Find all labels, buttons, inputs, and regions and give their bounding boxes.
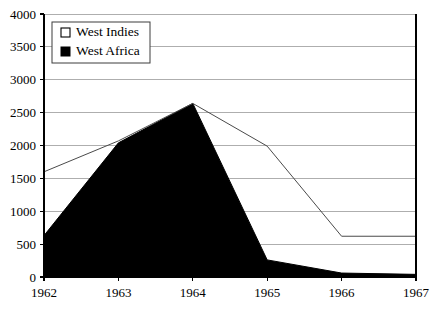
x-tick-label-1966: 1966 <box>329 285 356 300</box>
legend-swatch-west-africa <box>61 47 70 56</box>
x-tick-label-1963: 1963 <box>105 285 131 300</box>
x-tick-label-1964: 1964 <box>180 285 207 300</box>
chart-container: 05001000150020002500300035004000 1962196… <box>0 0 438 309</box>
y-tick-label-1000: 1000 <box>10 204 36 219</box>
y-tick-label-2000: 2000 <box>10 138 36 153</box>
y-tick-label-4000: 4000 <box>10 7 36 22</box>
x-tick-label-1967: 1967 <box>403 285 430 300</box>
y-tick-label-3500: 3500 <box>10 39 36 54</box>
x-tick-label-1965: 1965 <box>254 285 280 300</box>
legend-label-west-africa: West Africa <box>76 43 140 58</box>
y-tick-label-0: 0 <box>30 270 37 285</box>
x-tick-label-1962: 1962 <box>31 285 57 300</box>
y-tick-label-3000: 3000 <box>10 72 36 87</box>
y-tick-label-500: 500 <box>17 237 37 252</box>
y-tick-label-2500: 2500 <box>10 105 36 120</box>
legend-swatch-west-indies <box>61 28 70 37</box>
y-tick-label-1500: 1500 <box>10 171 36 186</box>
chart-svg: 05001000150020002500300035004000 1962196… <box>0 0 438 309</box>
legend-label-west-indies: West Indies <box>76 24 139 39</box>
chart-legend: West IndiesWest Africa <box>52 22 150 63</box>
